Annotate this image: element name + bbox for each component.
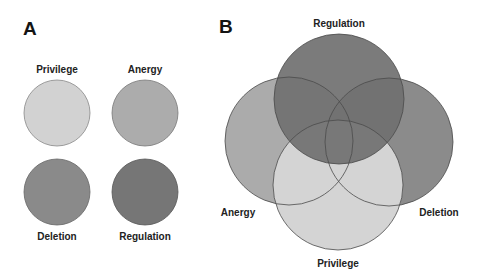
label-a-anergy: Anergy [128,64,162,75]
venn-regulation [274,34,404,164]
label-b-privilege: Privilege [317,258,359,269]
label-a-deletion: Deletion [37,231,76,242]
circle-privilege [24,80,90,146]
circle-anergy [112,80,178,146]
label-b-anergy: Anergy [221,207,255,218]
label-b-deletion: Deletion [419,207,458,218]
panel-b-letter: B [219,16,233,38]
panel-a-letter: A [23,18,37,40]
label-a-regulation: Regulation [119,231,171,242]
circle-regulation [112,159,178,225]
label-b-regulation: Regulation [313,18,365,29]
label-a-privilege: Privilege [36,64,78,75]
circle-deletion [24,159,90,225]
